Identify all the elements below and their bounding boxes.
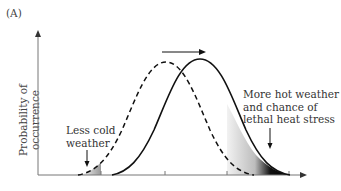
- cold-arrow-head-icon: [85, 161, 90, 167]
- hot-weather-annotation: More hot weather and chance of lethal he…: [243, 88, 339, 126]
- y-axis-arrow-icon: [35, 30, 41, 37]
- x-axis-arrow-icon: [300, 172, 307, 178]
- cold-tail-shade: [80, 162, 101, 175]
- shift-arrow-head-icon: [199, 49, 206, 55]
- cold-weather-annotation: Less cold weather: [66, 124, 116, 149]
- hot-arrow-head-icon: [268, 143, 273, 149]
